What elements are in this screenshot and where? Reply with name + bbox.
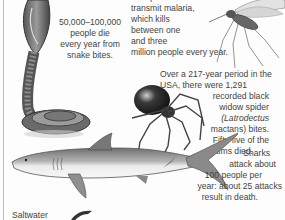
snake-caption-line: people die	[48, 28, 132, 39]
mosquito-illustration	[205, 0, 285, 70]
shark-caption-line: year: about 25 attacks	[175, 181, 282, 192]
snake-caption-line: every year from	[48, 39, 132, 50]
shark-caption-line: Sharks	[175, 148, 282, 159]
shark-caption: Sharks attack about 100 people per year:…	[175, 148, 282, 203]
crocodile-caption-line: Saltwater	[12, 210, 48, 220]
book-page: 50,000–100,000 people die every year fro…	[0, 0, 285, 220]
shark-caption-line: result in death.	[175, 192, 282, 203]
snake-caption: 50,000–100,000 people die every year fro…	[48, 17, 132, 61]
shark-caption-line: attack about	[175, 159, 282, 170]
crocodile-illustration	[68, 210, 98, 220]
snake-caption-line: snake bites.	[48, 50, 132, 61]
spider-caption-line: Over a 217-year period in the	[160, 69, 281, 80]
shark-caption-line: 100 people per	[175, 170, 282, 181]
page-edge-line	[3, 0, 4, 220]
snake-caption-line: 50,000–100,000	[48, 17, 132, 28]
crocodile-caption: Saltwater	[12, 210, 48, 220]
